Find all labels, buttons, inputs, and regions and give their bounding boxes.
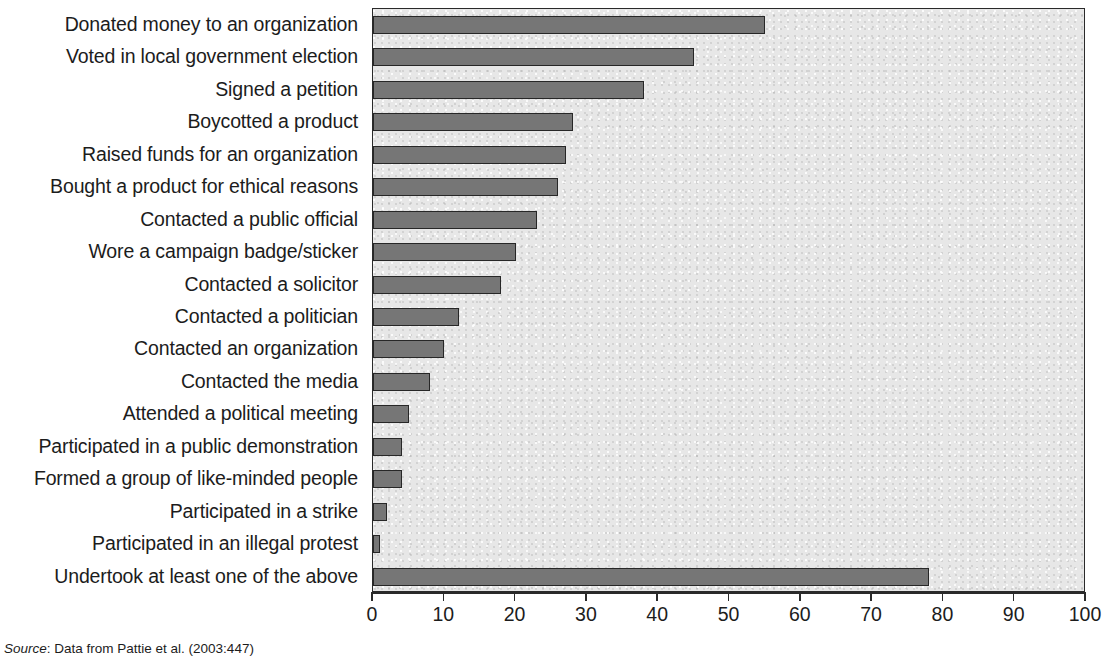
x-axis-tick-label: 70 [841,603,901,626]
x-axis-tick-label: 90 [984,603,1044,626]
bar-row [373,496,1084,528]
plot-area [372,8,1085,592]
x-axis-tick-label: 20 [485,603,545,626]
bar-row [373,106,1084,138]
x-axis-tick [656,592,658,601]
bar-row [373,528,1084,560]
bar [373,535,380,553]
bar-row [373,269,1084,301]
x-axis-tick [728,592,730,601]
x-axis-tick-label: 80 [912,603,972,626]
x-axis-tick-label: 60 [770,603,830,626]
category-label: Bought a product for ethical reasons [50,170,358,202]
bar [373,405,409,423]
x-axis-tick [1013,592,1015,601]
x-axis-tick-label: 100 [1055,603,1104,626]
x-axis-tick [799,592,801,601]
x-axis-tick-label: 10 [413,603,473,626]
bar [373,16,765,34]
category-label: Formed a group of like-minded people [34,462,358,494]
bar [373,340,444,358]
bar-row [373,204,1084,236]
bar-row [373,431,1084,463]
x-axis-tick [371,592,373,601]
bar-row [373,236,1084,268]
bar-row [373,561,1084,592]
category-label-column: Donated money to an organizationVoted in… [0,8,365,592]
bar-row [373,41,1084,73]
category-label: Contacted an organization [134,332,358,364]
category-label: Participated in an illegal protest [92,527,358,559]
x-axis-tick [514,592,516,601]
bar-row [373,301,1084,333]
x-axis-tick-label: 40 [627,603,687,626]
bar-row [373,463,1084,495]
x-axis-tick [942,592,944,601]
source-label: Source [4,641,47,656]
bar [373,113,573,131]
category-label: Voted in local government election [66,40,358,72]
category-label: Participated in a public demonstration [39,430,359,462]
x-axis-tick [443,592,445,601]
x-axis-tick [1084,592,1086,601]
category-label: Attended a political meeting [123,397,358,429]
bar [373,178,558,196]
category-label: Contacted a politician [175,300,358,332]
category-label: Undertook at least one of the above [54,560,358,592]
x-axis-tick-label: 30 [556,603,616,626]
source-text: : Data from Pattie et al. (2003:447) [47,641,254,656]
category-label: Participated in a strike [170,495,358,527]
bar [373,243,516,261]
x-axis: 0102030405060708090100 [372,592,1085,636]
category-label: Contacted a solicitor [184,268,358,300]
bar [373,308,459,326]
category-label: Raised funds for an organization [82,138,358,170]
bar [373,373,430,391]
x-axis-tick [870,592,872,601]
category-label: Signed a petition [215,73,358,105]
bar [373,438,402,456]
category-label: Donated money to an organization [65,8,358,40]
category-label: Contacted a public official [140,203,358,235]
category-label: Contacted the media [181,365,358,397]
bar [373,503,387,521]
bar [373,568,929,586]
bar [373,470,402,488]
bar [373,211,537,229]
bar-row [373,139,1084,171]
source-note: Source: Data from Pattie et al. (2003:44… [4,641,254,656]
bar-chart-figure: Donated money to an organizationVoted in… [0,0,1104,664]
category-label: Boycotted a product [187,105,358,137]
bar-row [373,74,1084,106]
bar-row [373,171,1084,203]
bar-row [373,9,1084,41]
bar [373,146,566,164]
bar [373,81,644,99]
bar-row [373,398,1084,430]
x-axis-tick-label: 0 [342,603,402,626]
category-label: Wore a campaign badge/sticker [88,235,358,267]
bar [373,48,694,66]
bar [373,276,501,294]
bar-row [373,333,1084,365]
x-axis-tick-label: 50 [699,603,759,626]
bar-row [373,366,1084,398]
x-axis-tick [585,592,587,601]
